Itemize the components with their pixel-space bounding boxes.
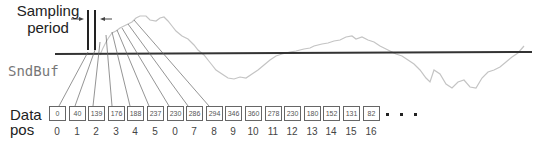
buffer-index: 7 bbox=[185, 126, 203, 137]
buffer-index: 1 bbox=[68, 126, 86, 137]
buffer-index: 9 bbox=[224, 126, 242, 137]
buffer-index: 8 bbox=[205, 126, 223, 137]
buffer-cell: 0 bbox=[49, 106, 66, 121]
buffer-index: 3 bbox=[107, 126, 125, 137]
sampling-diagram: Sampling period SndBuf Data pos 00401139… bbox=[0, 0, 538, 144]
ellipsis-dot bbox=[400, 113, 403, 116]
buffer-cell: 230 bbox=[167, 106, 184, 121]
ellipsis-dot bbox=[386, 113, 389, 116]
buffer-cell: 360 bbox=[245, 106, 262, 121]
buffer-index: 16 bbox=[362, 126, 380, 137]
buffer-cell: 82 bbox=[363, 106, 380, 121]
buffer-cell: 40 bbox=[69, 106, 86, 121]
data-label-line1: Data bbox=[10, 107, 42, 122]
buffer-index: 13 bbox=[303, 126, 321, 137]
buffer-index: 4 bbox=[126, 126, 144, 137]
ellipsis-dot bbox=[414, 113, 417, 116]
buffer-cell: 346 bbox=[225, 106, 242, 121]
buffer-index: 0 bbox=[48, 126, 66, 137]
buffer-cell: 294 bbox=[206, 106, 223, 121]
arrow-left-icon bbox=[100, 17, 105, 21]
buffer-index: 5 bbox=[146, 126, 164, 137]
sndbuf-label: SndBuf bbox=[8, 63, 59, 79]
buffer-cell: 139 bbox=[88, 106, 105, 121]
buffer-cell: 131 bbox=[343, 106, 360, 121]
buffer-index: 14 bbox=[322, 126, 340, 137]
sampling-label-line2: period bbox=[8, 19, 88, 36]
sampling-period-label: Sampling period bbox=[8, 2, 88, 36]
buffer-cell: 237 bbox=[147, 106, 164, 121]
buffer-index: 15 bbox=[342, 126, 360, 137]
buffer-index: 12 bbox=[283, 126, 301, 137]
buffer-cell: 286 bbox=[186, 106, 203, 121]
buffer-index: 0 bbox=[166, 126, 184, 137]
buffer-index: 11 bbox=[264, 126, 282, 137]
data-pos-label: Data pos bbox=[10, 107, 42, 137]
buffer-index: 2 bbox=[87, 126, 105, 137]
data-label-line2: pos bbox=[10, 122, 42, 137]
buffer-cell: 188 bbox=[127, 106, 144, 121]
buffer-cell: 180 bbox=[304, 106, 321, 121]
buffer-cell: 176 bbox=[108, 106, 125, 121]
buffer-index: 10 bbox=[244, 126, 262, 137]
sampling-label-line1: Sampling bbox=[8, 2, 88, 19]
buffer-cell: 278 bbox=[265, 106, 282, 121]
buffer-cell: 230 bbox=[284, 106, 301, 121]
buffer-cell: 152 bbox=[323, 106, 340, 121]
